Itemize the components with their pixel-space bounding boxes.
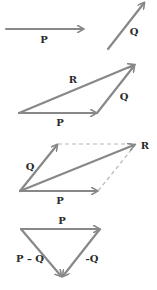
label-r: R [141,140,150,151]
label-q: Q [120,91,129,102]
label-p: P [40,34,48,45]
label-p: P [56,195,64,206]
vector-diagrams: P Q R Q P R Q P P P – Q -Q [0,0,157,290]
label-p-minus-q: P – Q [16,253,44,264]
label-p: P [58,215,66,226]
vector-q-arrow [108,3,144,49]
label-p: P [56,117,64,128]
label-q: Q [26,161,35,172]
figure-triangle-addition: R Q P [19,65,134,128]
figure-vector-subtraction: P P – Q -Q [16,215,100,276]
label-q: Q [130,26,139,37]
label-r: R [69,74,78,85]
label-neg-q: -Q [86,253,99,264]
figure-parallelogram-addition: R Q P [20,140,150,206]
figure-separate-vectors: P Q [6,3,144,49]
